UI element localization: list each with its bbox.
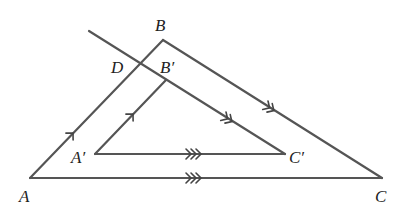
label-D: D xyxy=(110,58,124,77)
segment-BC xyxy=(163,40,382,178)
label-A-prime: A′ xyxy=(70,148,85,167)
geometry-diagram: B D B′ A′ C′ A C xyxy=(0,0,404,212)
label-C: C xyxy=(375,187,387,206)
segment-D-C-prime xyxy=(89,31,285,154)
label-A: A xyxy=(18,187,30,206)
label-B-prime: B′ xyxy=(160,58,174,77)
segment-A-prime-B-prime xyxy=(95,80,166,154)
segment-AB xyxy=(30,40,163,178)
label-C-prime: C′ xyxy=(289,148,304,167)
label-B: B xyxy=(155,16,166,35)
